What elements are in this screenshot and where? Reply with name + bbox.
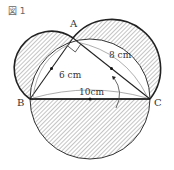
label-b: B (17, 97, 24, 108)
semicircle-bc-lower (30, 99, 150, 159)
length-ab: 6 cm (59, 70, 82, 80)
semicircle-ab (14, 31, 73, 99)
label-a: A (69, 18, 78, 29)
length-ac: 8 cm (109, 50, 132, 60)
label-c: C (154, 97, 162, 108)
midpoint-ac (110, 67, 113, 70)
length-bc: 10cm (79, 87, 104, 97)
figure-canvas: 図 1 (0, 0, 174, 170)
geometry-diagram: A B C 6 cm 8 cm 10cm (0, 0, 174, 170)
right-angle-mark (68, 44, 81, 52)
midpoint-ab (50, 67, 53, 70)
midpoint-bc (89, 98, 92, 101)
